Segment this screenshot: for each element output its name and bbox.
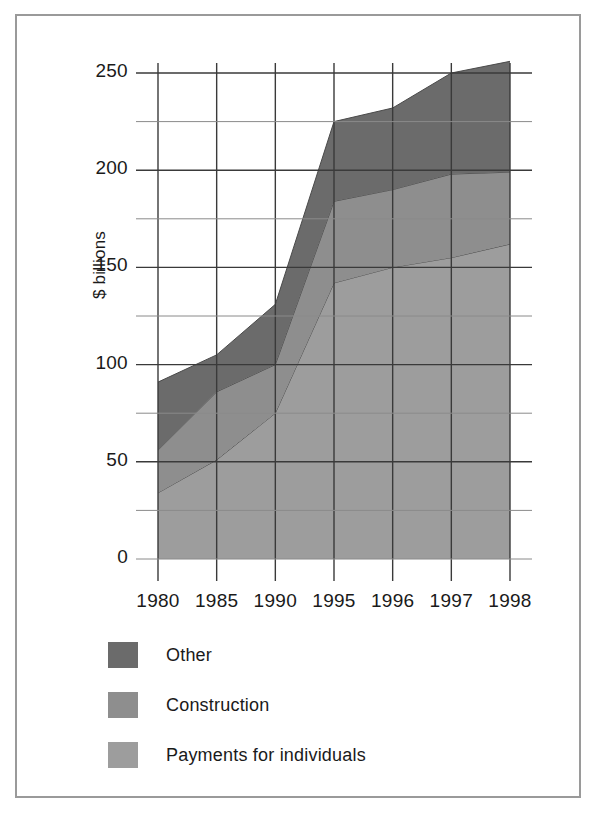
legend-swatch-icon — [108, 742, 138, 768]
legend-swatch-icon — [108, 642, 138, 668]
legend-swatch-icon — [108, 692, 138, 718]
y-tick-label-50: 50 — [64, 449, 128, 471]
legend-item-label: Other — [166, 645, 212, 666]
y-tick-label-250: 250 — [64, 60, 128, 82]
chart-legend: OtherConstructionPayments for individual… — [108, 630, 366, 780]
legend-item[interactable]: Payments for individuals — [108, 730, 366, 780]
y-tick-label-150: 150 — [64, 254, 128, 276]
legend-item-label: Construction — [166, 695, 269, 716]
y-tick-label-100: 100 — [64, 352, 128, 374]
figure-container: $ billions 050100150200250 1980198519901… — [0, 0, 599, 818]
x-tick-label-1998: 1998 — [475, 590, 545, 612]
legend-item[interactable]: Construction — [108, 680, 366, 730]
legend-item-label: Payments for individuals — [166, 745, 366, 766]
y-tick-label-0: 0 — [64, 546, 128, 568]
legend-item[interactable]: Other — [108, 630, 366, 680]
y-tick-label-200: 200 — [64, 157, 128, 179]
